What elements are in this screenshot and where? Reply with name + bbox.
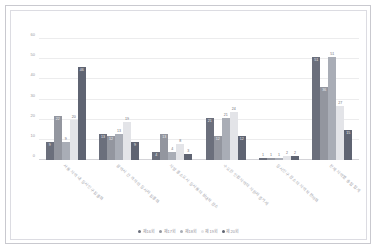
legend-label: 제16회 [143, 229, 155, 234]
bar-value-label: 13 [101, 135, 105, 139]
bar-value-label: 20 [72, 115, 76, 119]
y-axis-tick-label: 40 [31, 73, 35, 77]
bar[interactable]: 13 [99, 134, 107, 160]
bar[interactable]: 1 [259, 158, 267, 160]
x-label-slot: 서울 지역 내 응시인구 집중화 [39, 161, 92, 223]
x-label-slot: 광역시 간 격차와 응시자 집중화 [92, 161, 145, 223]
bar-wrapper: 36 [320, 39, 328, 160]
y-axis-tick-label: 50 [31, 53, 35, 57]
bar-value-label: 22 [56, 117, 60, 121]
bar-value-label: 4 [171, 147, 173, 151]
bar[interactable]: 9 [46, 142, 54, 160]
legend-label: 제19회 [205, 229, 217, 234]
bar-wrapper: 1 [259, 39, 267, 160]
bar-group: 11122 [252, 39, 305, 160]
bar-wrapper: 9 [62, 39, 70, 160]
y-axis-tick-label: 10 [31, 134, 35, 138]
bar-value-label: 12 [216, 137, 220, 141]
legend-item[interactable]: 제20회 [222, 229, 239, 234]
chart-card: 0102030405060 92292046131213199413483211… [5, 5, 371, 244]
bar-wrapper: 2 [283, 39, 291, 160]
x-label-slot: 수도권 인접지역의 지원자 증가세 [199, 161, 252, 223]
legend-item[interactable]: 제19회 [201, 229, 218, 234]
bar[interactable]: 4 [152, 152, 160, 160]
bar-wrapper: 9 [46, 39, 54, 160]
bar[interactable]: 1 [275, 158, 283, 160]
bar-value-label: 4 [155, 153, 157, 157]
bar[interactable]: 36 [320, 87, 328, 160]
bar[interactable]: 13 [160, 134, 168, 160]
bar[interactable]: 12 [214, 136, 222, 160]
bar-wrapper: 19 [123, 39, 131, 160]
bar[interactable]: 9 [131, 142, 139, 160]
bar[interactable]: 19 [123, 122, 131, 160]
bar[interactable]: 4 [168, 152, 176, 160]
bar-value-label: 9 [65, 137, 67, 141]
bar-value-label: 51 [314, 58, 318, 62]
bar-group: 5136512715 [306, 39, 359, 160]
bar[interactable]: 3 [184, 154, 192, 160]
bar-value-label: 24 [232, 107, 236, 111]
legend-swatch-icon [159, 230, 162, 233]
bar[interactable]: 12 [107, 136, 115, 160]
bar[interactable]: 21 [206, 118, 214, 160]
bar-value-label: 8 [179, 139, 181, 143]
bar[interactable]: 2 [291, 156, 299, 160]
legend-swatch-icon [138, 230, 141, 233]
bar-value-label: 9 [49, 143, 51, 147]
bar[interactable]: 8 [176, 144, 184, 160]
bar-wrapper: 12 [107, 39, 115, 160]
y-axis-tick-label: 20 [31, 114, 35, 118]
bar[interactable]: 46 [78, 67, 86, 160]
bar-wrapper: 1 [267, 39, 275, 160]
bar[interactable]: 1 [267, 158, 275, 160]
bar[interactable]: 51 [312, 57, 320, 160]
bar[interactable]: 2 [283, 156, 291, 160]
legend-item[interactable]: 제16회 [138, 229, 155, 234]
bar-value-label: 12 [109, 137, 113, 141]
bar-value-label: 13 [162, 135, 166, 139]
bar-value-label: 19 [125, 117, 129, 121]
bar[interactable]: 9 [62, 142, 70, 160]
legend-swatch-icon [222, 230, 225, 233]
bar-wrapper: 21 [222, 39, 230, 160]
bar[interactable]: 51 [328, 57, 336, 160]
bar[interactable]: 15 [344, 130, 352, 160]
bar-wrapper: 51 [312, 39, 320, 160]
bar[interactable]: 24 [230, 112, 238, 160]
chart-x-axis-labels: 서울 지역 내 응시인구 집중화광역시 간 격차와 응시자 집중화지방 중소도시… [39, 161, 359, 223]
bar-value-label: 21 [224, 113, 228, 117]
bar[interactable]: 20 [70, 120, 78, 160]
legend-label: 제18회 [185, 229, 197, 234]
x-label-slot: 응시인구 감소의 지역적 편차화 [252, 161, 305, 223]
bar-wrapper: 2 [291, 39, 299, 160]
bar-wrapper: 12 [214, 39, 222, 160]
legend-swatch-icon [201, 230, 204, 233]
bar-value-label: 3 [187, 149, 189, 153]
chart-plot-area: 0102030405060 92292046131213199413483211… [39, 39, 359, 160]
bar-wrapper: 8 [176, 39, 184, 160]
bar-wrapper: 46 [78, 39, 86, 160]
legend-item[interactable]: 제17회 [159, 229, 176, 234]
bar-value-label: 15 [346, 131, 350, 135]
bar-value-label: 2 [286, 151, 288, 155]
y-axis-tick-label: 60 [31, 33, 35, 37]
bar-wrapper: 13 [160, 39, 168, 160]
bar-value-label: 51 [330, 52, 334, 56]
bar-value-label: 12 [240, 137, 244, 141]
bar-group: 413483 [146, 39, 199, 160]
bar[interactable]: 12 [238, 136, 246, 160]
bar[interactable]: 27 [336, 106, 344, 160]
chart-plot-frame: 0102030405060 92292046131213199413483211… [10, 10, 367, 240]
bar[interactable]: 22 [54, 116, 62, 160]
bar-wrapper: 13 [99, 39, 107, 160]
bar-wrapper: 27 [336, 39, 344, 160]
bar-value-label: 1 [262, 153, 264, 157]
legend-item[interactable]: 제18회 [180, 229, 197, 234]
bar[interactable]: 21 [222, 118, 230, 160]
bar-group: 92292046 [39, 39, 92, 160]
bar-group: 2112212412 [199, 39, 252, 160]
bar-wrapper: 4 [152, 39, 160, 160]
bar[interactable]: 13 [115, 134, 123, 160]
bar-group: 131213199 [92, 39, 145, 160]
